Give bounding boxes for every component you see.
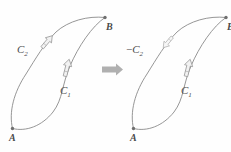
label-c2-sub-right: 2 — [140, 50, 144, 58]
point-a-dot-left — [11, 127, 14, 130]
label-c2-base-right: C — [132, 43, 139, 55]
label-curve-c2-right: −C2 — [126, 44, 143, 58]
label-curve-c1-right: C1 — [181, 85, 192, 99]
point-a-dot-right — [132, 127, 135, 130]
point-b-dot-right — [224, 16, 227, 19]
label-c1-sub-right: 1 — [188, 91, 192, 99]
figure-container: C2 C1 A B −C2 C1 A B — [0, 0, 231, 152]
label-point-b-left: B — [106, 22, 113, 32]
label-point-a-left: A — [9, 133, 16, 143]
label-c1-sub-left: 1 — [67, 91, 71, 99]
label-curve-c2-left: C2 — [17, 44, 28, 58]
right-panel-group — [132, 16, 228, 130]
left-panel-group — [11, 16, 107, 130]
transition-arrow-glyph — [102, 64, 123, 76]
label-point-b-right: B — [227, 22, 231, 32]
diagram-canvas — [0, 0, 231, 152]
label-point-a-right: A — [130, 133, 137, 143]
curve-c2-left — [11, 17, 105, 128]
point-b-dot-left — [103, 16, 106, 19]
label-c2-sub-left: 2 — [24, 50, 28, 58]
direction-marker-c1-right — [182, 58, 194, 77]
direction-marker-c1-left — [61, 58, 73, 77]
curve-c2-right — [132, 17, 226, 128]
label-curve-c1-left: C1 — [60, 85, 71, 99]
